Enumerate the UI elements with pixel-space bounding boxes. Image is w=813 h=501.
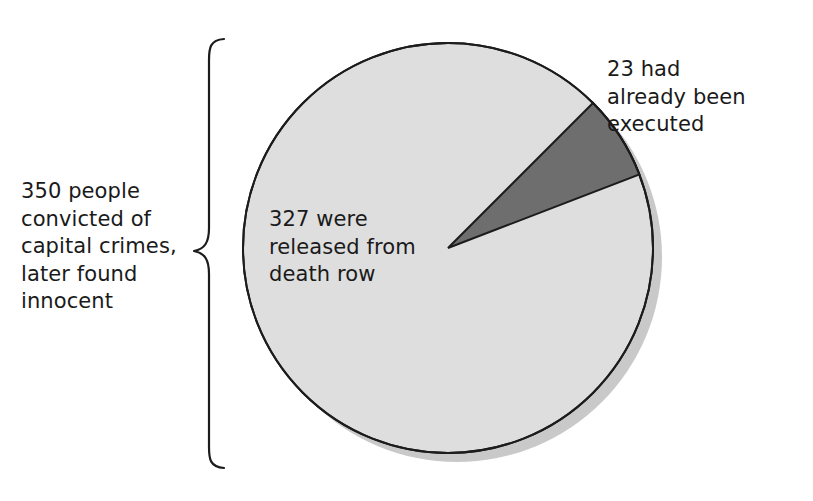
total-brace <box>194 39 224 468</box>
label-already-executed: 23 had already been executed <box>607 56 807 139</box>
label-released-from-death-row: 327 were released from death row <box>269 206 479 289</box>
pie-chart-figure: 350 people convicted of capital crimes, … <box>0 0 813 501</box>
label-total-convicted: 350 people convicted of capital crimes, … <box>21 178 196 316</box>
